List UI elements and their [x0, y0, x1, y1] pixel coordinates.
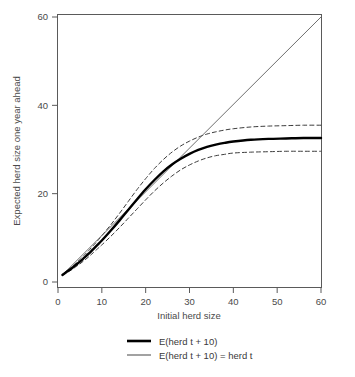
- y-axis-ticks: [52, 17, 58, 282]
- y-tick-label: 60: [37, 11, 48, 22]
- y-tick-label: 0: [43, 276, 48, 287]
- x-axis-title: Initial herd size: [157, 310, 220, 321]
- x-tick-label: 40: [228, 296, 239, 307]
- y-axis-tick-labels: 0204060: [37, 11, 48, 287]
- x-tick-label: 0: [55, 296, 60, 307]
- x-tick-label: 10: [97, 296, 108, 307]
- herd-size-projection-chart: 0204060 0102030405060 Initial herd size …: [0, 0, 355, 377]
- y-tick-label: 40: [37, 100, 48, 111]
- y-tick-label: 20: [37, 188, 48, 199]
- y-axis-title: Expected herd size one year ahead: [11, 76, 22, 225]
- legend-label: E(herd t + 10) = herd t: [159, 350, 253, 361]
- figure-container: 0204060 0102030405060 Initial herd size …: [0, 0, 355, 377]
- x-tick-label: 30: [184, 296, 195, 307]
- x-axis-ticks: [58, 288, 321, 294]
- chart-legend: E(herd t + 10)E(herd t + 10) = herd t: [127, 336, 253, 361]
- legend-label: E(herd t + 10): [159, 336, 217, 347]
- x-axis-tick-labels: 0102030405060: [55, 296, 326, 307]
- x-tick-label: 60: [316, 296, 327, 307]
- x-tick-label: 20: [140, 296, 151, 307]
- x-tick-label: 50: [272, 296, 283, 307]
